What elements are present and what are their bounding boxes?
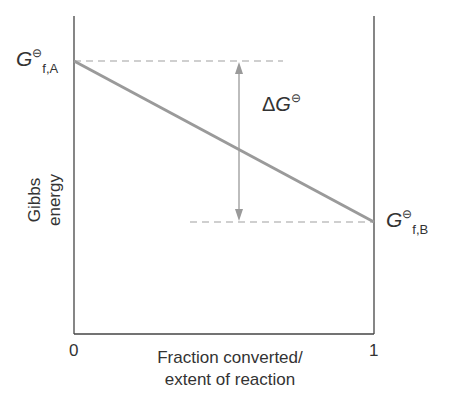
delta-main: G [275,93,291,115]
y-axis-label: Gibbs energy [25,150,65,250]
arrow-head-up [235,62,243,74]
gfa-label: G⊖f,A [16,47,58,71]
x-tick-1: 1 [369,341,378,361]
gfa-main: G [16,47,32,70]
gibbs-diagram [0,0,458,396]
x-axis-label-line2: extent of reaction [120,369,340,391]
gibbs-line [74,61,374,222]
gfb-sup: ⊖ [402,207,412,221]
gfa-sub: f,A [42,61,58,76]
arrow-head-down [235,209,243,221]
delta-g-label: ΔG⊖ [262,93,301,116]
x-axis-label-line1: Fraction converted/ [120,347,340,369]
gfb-sub: f,B [412,222,428,237]
gfa-sup: ⊖ [32,46,42,60]
gfb-main: G [386,208,402,231]
delta-prefix: Δ [262,93,275,115]
x-tick-0: 0 [69,341,78,361]
delta-sup: ⊖ [291,91,301,105]
x-axis-label: Fraction converted/ extent of reaction [120,347,340,391]
gfb-label: G⊖f,B [386,208,428,232]
